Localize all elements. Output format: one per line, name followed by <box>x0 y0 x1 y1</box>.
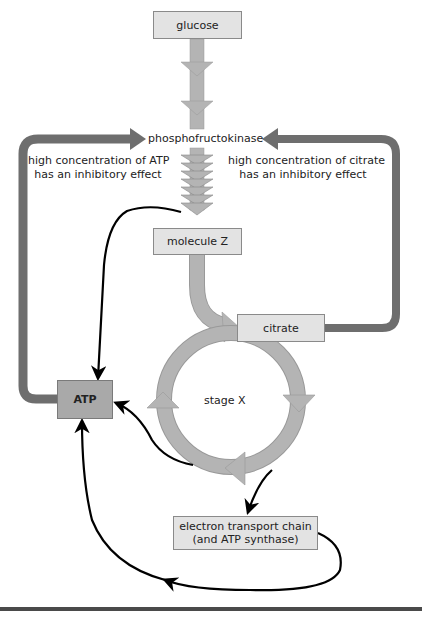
citrate-inhibition-note: high concentration of citrate has an inh… <box>228 154 378 182</box>
glucose-label: glucose <box>176 19 218 32</box>
glucose-box: glucose <box>153 11 242 39</box>
stage-x-cycle <box>147 333 315 485</box>
phosphofructokinase-label: phosphofructokinase <box>148 132 263 146</box>
glucose-to-enzyme-arrow <box>181 39 213 129</box>
enzyme-chevron-stack <box>181 148 213 215</box>
atp-inhibition-line1: high concentration of ATP <box>28 154 168 168</box>
atp-inhibition-line2: has an inhibitory effect <box>28 168 168 182</box>
atp-inhibition-note: high concentration of ATP has an inhibit… <box>28 154 168 182</box>
citrate-inhibition-line2: has an inhibitory effect <box>228 168 378 182</box>
molecule-z-label: molecule Z <box>167 235 228 248</box>
atp-box: ATP <box>57 380 113 419</box>
citrate-inhibition-line1: high concentration of citrate <box>228 154 378 168</box>
atp-label: ATP <box>73 393 96 406</box>
bottom-divider-rule <box>0 607 422 611</box>
citrate-box: citrate <box>237 314 325 342</box>
stage-x-label: stage X <box>204 394 246 408</box>
molecule-z-box: molecule Z <box>153 228 242 255</box>
glycolysis-regulation-diagram: glucose phosphofructokinase high concent… <box>0 0 422 622</box>
citrate-label: citrate <box>263 322 299 335</box>
etc-label-line2: (and ATP synthase) <box>192 533 298 546</box>
electron-transport-chain-box: electron transport chain (and ATP syntha… <box>173 516 318 550</box>
etc-label-line1: electron transport chain <box>179 520 312 533</box>
